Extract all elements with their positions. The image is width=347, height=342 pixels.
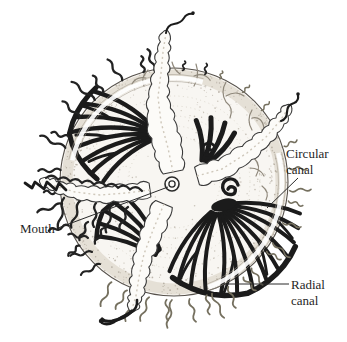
jellyfish-diagram: Mouth Circular canal Radial canal — [0, 0, 347, 342]
mouth-label: Mouth — [20, 221, 55, 236]
circular-canal-label-line2: canal — [286, 162, 314, 177]
radial-canal-label-line1: Radial — [291, 277, 325, 292]
radial-canal-label-line2: canal — [291, 293, 319, 308]
illustration-page: Mouth Circular canal Radial canal — [0, 0, 347, 342]
circular-canal-label-line1: Circular — [286, 146, 329, 161]
